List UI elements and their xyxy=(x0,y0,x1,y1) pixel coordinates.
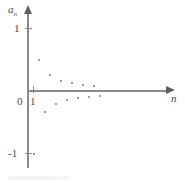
x-tick-mark-1 xyxy=(33,86,34,93)
x-axis-label: n xyxy=(171,93,177,104)
data-point xyxy=(60,80,62,82)
y-tick-label-neg1: -1 xyxy=(8,148,17,159)
data-point xyxy=(66,99,68,101)
data-point xyxy=(99,95,101,97)
data-point xyxy=(77,97,79,99)
data-point xyxy=(88,96,90,98)
horizontal-axis-line xyxy=(28,90,168,92)
scatter-plot-figure: an n 1 -1 0 1 xyxy=(0,0,185,183)
data-point xyxy=(33,153,35,155)
data-point xyxy=(71,82,73,84)
y-tick-mark-1 xyxy=(25,28,32,29)
x-tick-label-1: 1 xyxy=(30,96,36,107)
vertical-axis-line xyxy=(27,12,29,168)
y-tick-mark-neg1 xyxy=(25,153,32,154)
origin-label: 0 xyxy=(17,96,23,107)
y-tick-label-1: 1 xyxy=(14,23,20,34)
caption-fragment xyxy=(8,176,70,180)
data-point xyxy=(93,85,95,87)
data-point xyxy=(82,84,84,86)
data-point xyxy=(49,74,51,76)
data-point xyxy=(44,111,46,113)
data-point xyxy=(38,59,40,61)
y-axis-label-subscript: n xyxy=(14,10,18,18)
arrow-up-icon xyxy=(24,5,32,14)
y-axis-label: an xyxy=(8,4,17,20)
data-point xyxy=(55,103,57,105)
